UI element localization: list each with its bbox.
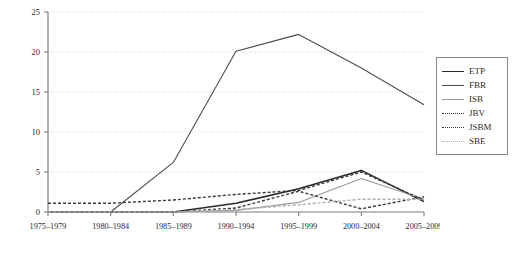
x-axis-tick-label: 1990–1994 xyxy=(218,222,255,231)
series-line-isb xyxy=(48,178,424,212)
y-axis-tick-label: 25 xyxy=(32,7,41,17)
legend-swatch-fbr-icon xyxy=(442,80,464,90)
y-axis-tick-label: 10 xyxy=(32,127,41,137)
gridlines xyxy=(48,12,424,172)
y-axis-tick-label: 0 xyxy=(36,207,40,217)
legend-item-sbe[interactable]: SBE xyxy=(442,134,503,148)
legend-item-label: FBR xyxy=(469,80,486,90)
legend-item-fbr[interactable]: FBR xyxy=(442,78,503,92)
legend-item-isb[interactable]: ISB xyxy=(442,92,503,106)
series-line-jsbm xyxy=(48,191,424,212)
plot-area: 0510152025 1975–19791980–19841985–198919… xyxy=(0,0,440,260)
legend-item-label: SBE xyxy=(469,136,486,146)
legend-item-label: JBV xyxy=(469,108,485,118)
legend-swatch-isb-icon xyxy=(442,94,464,104)
y-axis-tick-label: 20 xyxy=(32,47,41,57)
legend-swatch-jbv-icon xyxy=(442,108,464,118)
legend-swatch-sbe-icon xyxy=(442,136,464,146)
chart-legend: ETPFBRISBJBVJSBMSBE xyxy=(436,57,508,155)
x-axis-tick-label: 1995–1999 xyxy=(280,222,317,231)
legend-item-label: ETP xyxy=(469,66,485,76)
legend-item-label: JSBM xyxy=(469,122,492,132)
y-axis-tick-label: 15 xyxy=(32,87,41,97)
series-line-etp xyxy=(48,170,424,212)
data-series-group xyxy=(48,34,424,212)
x-axis-tick-label: 2000–2004 xyxy=(343,222,380,231)
legend-item-jbv[interactable]: JBV xyxy=(442,106,503,120)
y-axis-labels: 0510152025 xyxy=(32,7,41,217)
y-axis-tick-label: 5 xyxy=(36,167,40,177)
x-axis-tick-label: 1975–1979 xyxy=(30,222,67,231)
x-axis-tick-label: 2005–2009 xyxy=(406,222,440,231)
legend-item-label: ISB xyxy=(469,94,483,104)
legend-swatch-jsbm-icon xyxy=(442,122,464,132)
x-axis-tick-label: 1985–1989 xyxy=(155,222,192,231)
legend-item-etp[interactable]: ETP xyxy=(442,64,503,78)
chart-page: 0510152025 1975–19791980–19841985–198919… xyxy=(0,0,515,260)
x-axis-labels: 1975–19791980–19841985–19891990–19941995… xyxy=(30,222,440,231)
line-chart-svg: 0510152025 1975–19791980–19841985–198919… xyxy=(0,0,440,260)
legend-item-jsbm[interactable]: JSBM xyxy=(442,120,503,134)
series-line-fbr xyxy=(48,34,424,212)
legend-swatch-etp-icon xyxy=(442,66,464,76)
x-axis-tick-label: 1980–1984 xyxy=(92,222,129,231)
